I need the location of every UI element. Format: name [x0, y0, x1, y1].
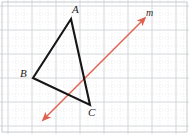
geometry-figure: A B C m: [0, 0, 189, 134]
geometry-layer: [0, 0, 189, 134]
triangle-abc: [33, 19, 90, 105]
